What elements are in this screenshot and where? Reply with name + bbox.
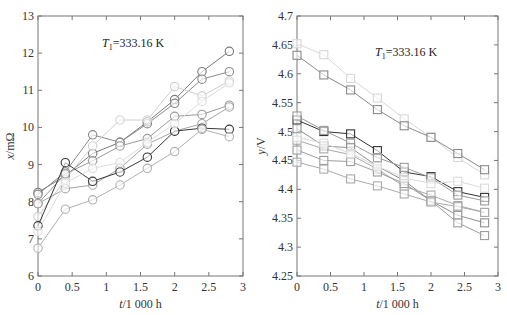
x-tick-label: 2.5 [201, 280, 216, 294]
y-tick-label: 4.35 [272, 211, 293, 225]
square-marker [481, 197, 489, 205]
circle-marker [61, 170, 69, 178]
square-marker [373, 162, 381, 170]
square-marker [293, 112, 301, 120]
circle-marker [225, 79, 233, 87]
square-marker [320, 165, 328, 173]
circle-marker [170, 82, 178, 90]
square-marker [373, 182, 381, 190]
x-tick-label: 2 [428, 280, 434, 294]
y-axis-label: x/mΩ [3, 132, 17, 160]
square-marker [347, 175, 355, 183]
circle-marker [225, 68, 233, 76]
x-tick-label: 1.5 [133, 280, 148, 294]
square-marker [373, 154, 381, 162]
y-tick-label: 8 [28, 195, 34, 209]
square-marker [454, 191, 462, 199]
square-marker [320, 126, 328, 134]
circle-marker [88, 142, 96, 150]
x-tick-label: 3 [495, 280, 501, 294]
circle-marker [143, 153, 151, 161]
x-tick-label: 3 [240, 280, 246, 294]
circle-marker [198, 125, 206, 133]
circle-marker [198, 75, 206, 83]
x-tick-label: 1.5 [390, 280, 405, 294]
square-marker [347, 86, 355, 94]
temperature-annotation: T1=333.16 K [375, 45, 437, 61]
square-marker [293, 133, 301, 141]
square-marker [400, 122, 408, 130]
circle-marker [198, 97, 206, 105]
y-tick-label: 4.65 [272, 38, 293, 52]
y-tick-label: 4.5 [278, 125, 293, 139]
y-tick-label: 11 [22, 83, 34, 97]
square-marker [320, 156, 328, 164]
circle-marker [225, 133, 233, 141]
circle-marker [34, 244, 42, 252]
square-marker [347, 158, 355, 166]
circle-marker [116, 159, 124, 167]
square-marker [293, 146, 301, 154]
square-marker [481, 166, 489, 174]
square-marker [427, 133, 435, 141]
square-marker [454, 203, 462, 211]
x-tick-label: 1 [361, 280, 367, 294]
square-marker [320, 139, 328, 147]
square-marker [400, 190, 408, 198]
x-tick-label: 1 [103, 280, 109, 294]
circle-marker [34, 190, 42, 198]
circle-marker [170, 147, 178, 155]
circle-marker [170, 99, 178, 107]
y-tick-label: 4.25 [272, 269, 293, 283]
left-plot-x-resistance: 00.511.522.53678910111213t/1 000 hx/mΩT1… [3, 9, 246, 311]
square-marker [454, 150, 462, 158]
circle-marker [88, 164, 96, 172]
square-marker [454, 177, 462, 185]
circle-marker [88, 196, 96, 204]
y-axis-label: y/V [254, 137, 268, 156]
square-marker [347, 150, 355, 158]
circle-marker [143, 138, 151, 146]
x-axis-label: t/1 000 h [119, 297, 162, 311]
temperature-annotation: T1=333.16 K [102, 36, 164, 52]
circle-marker [225, 47, 233, 55]
y-tick-label: 13 [22, 9, 34, 23]
circle-marker [225, 103, 233, 111]
square-marker [347, 130, 355, 138]
x-axis-label: t/1 000 h [376, 297, 419, 311]
y-tick-label: 4.55 [272, 96, 293, 110]
x-tick-label: 2 [172, 280, 178, 294]
square-marker [320, 71, 328, 79]
square-marker [373, 106, 381, 114]
y-tick-label: 4.3 [278, 240, 293, 254]
circle-marker [34, 199, 42, 207]
circle-marker [170, 120, 178, 128]
square-marker [293, 125, 301, 133]
x-tick-label: 0.5 [323, 280, 338, 294]
circle-marker [143, 164, 151, 172]
circle-marker [88, 131, 96, 139]
x-tick-label: 2.5 [457, 280, 472, 294]
plot-frame [38, 16, 243, 276]
circle-marker [61, 159, 69, 167]
y-tick-label: 6 [28, 269, 34, 283]
series-r2 [293, 51, 489, 173]
square-marker [427, 180, 435, 188]
square-marker [427, 198, 435, 206]
x-tick-label: 0 [294, 280, 300, 294]
y-tick-label: 4.7 [278, 9, 293, 23]
square-marker [400, 163, 408, 171]
square-marker [454, 211, 462, 219]
square-marker [481, 219, 489, 227]
x-tick-label: 0.5 [65, 280, 80, 294]
circle-marker [198, 110, 206, 118]
circle-marker [116, 181, 124, 189]
circle-marker [88, 177, 96, 185]
square-marker [481, 232, 489, 240]
y-tick-label: 4.6 [278, 67, 293, 81]
square-marker [400, 174, 408, 182]
circle-marker [116, 168, 124, 176]
square-marker [293, 51, 301, 59]
square-marker [481, 208, 489, 216]
square-marker [373, 94, 381, 102]
